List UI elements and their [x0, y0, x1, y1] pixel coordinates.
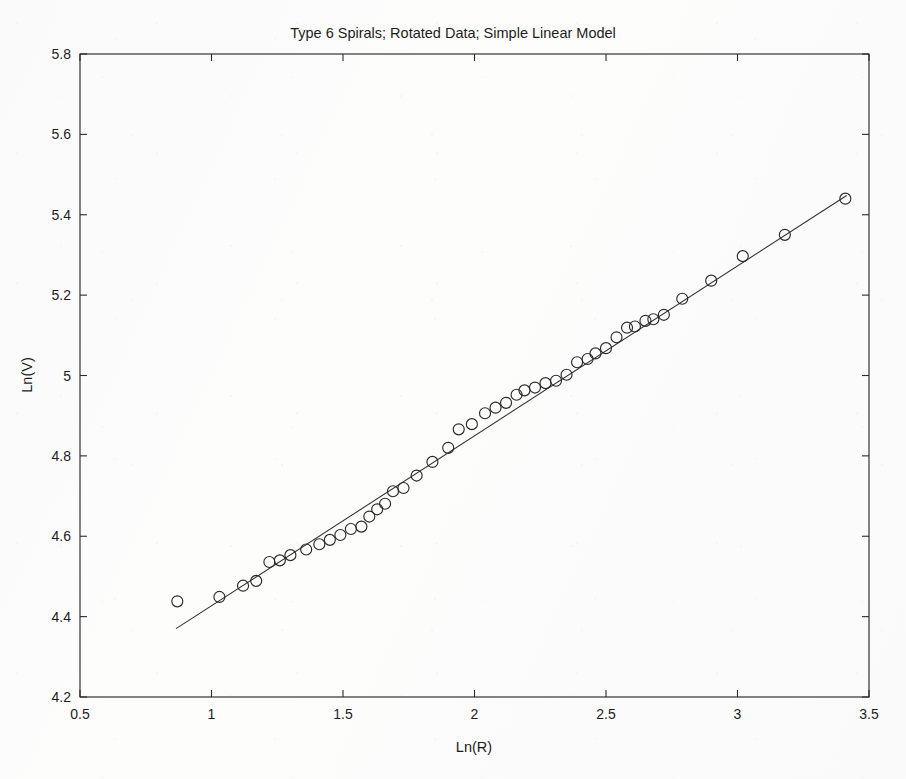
data-point[interactable]: [380, 498, 391, 509]
data-point[interactable]: [398, 483, 409, 494]
data-point[interactable]: [356, 521, 367, 532]
y-tick-label: 4.6: [52, 528, 72, 544]
data-point[interactable]: [572, 357, 583, 368]
chart-title: Type 6 Spirals; Rotated Data; Simple Lin…: [290, 25, 616, 41]
data-point[interactable]: [480, 408, 491, 419]
y-axis-ticks: [80, 54, 869, 697]
x-tick-label: 3.5: [859, 706, 879, 722]
data-point[interactable]: [658, 309, 669, 320]
data-point[interactable]: [648, 314, 659, 325]
data-point[interactable]: [501, 397, 512, 408]
y-tick-label: 5: [63, 368, 71, 384]
x-tick-label: 0.5: [70, 706, 90, 722]
x-tick-label: 2.5: [596, 706, 616, 722]
data-point[interactable]: [301, 544, 312, 555]
y-tick-label: 4.4: [52, 609, 72, 625]
x-tick-label: 2: [471, 706, 479, 722]
y-tick-label: 5.4: [52, 207, 72, 223]
data-point[interactable]: [264, 556, 275, 567]
data-point[interactable]: [629, 321, 640, 332]
y-axis-title: Ln(V): [19, 357, 35, 392]
data-point[interactable]: [737, 251, 748, 262]
y-tick-label: 5.8: [52, 46, 72, 62]
y-tick-label: 5.2: [52, 287, 72, 303]
data-point[interactable]: [443, 442, 454, 453]
figure-canvas: 0.511.522.533.5 4.24.44.64.855.25.45.65.…: [0, 0, 906, 779]
data-point[interactable]: [640, 315, 651, 326]
data-point[interactable]: [324, 534, 335, 545]
y-tick-label: 5.6: [52, 126, 72, 142]
data-point[interactable]: [453, 424, 464, 435]
x-tick-label: 1.5: [333, 706, 353, 722]
scatter-plot-chart[interactable]: 0.511.522.533.5 4.24.44.64.855.25.45.65.…: [0, 0, 906, 779]
data-point[interactable]: [622, 322, 633, 333]
y-tick-label: 4.8: [52, 448, 72, 464]
data-point[interactable]: [372, 504, 383, 515]
plot-frame: [80, 54, 869, 697]
y-tick-label: 4.2: [52, 689, 72, 705]
x-axis-ticks: [80, 54, 869, 697]
x-tick-label: 1: [208, 706, 216, 722]
data-point[interactable]: [540, 378, 551, 389]
data-point[interactable]: [490, 402, 501, 413]
data-point[interactable]: [427, 456, 438, 467]
data-point[interactable]: [314, 539, 325, 550]
data-point[interactable]: [611, 332, 622, 343]
data-point[interactable]: [345, 524, 356, 535]
x-axis-tick-labels: 0.511.522.533.5: [70, 706, 879, 722]
y-axis-tick-labels: 4.24.44.64.855.25.45.65.8: [52, 46, 72, 705]
data-point-markers[interactable]: [172, 193, 851, 607]
data-point[interactable]: [561, 369, 572, 380]
data-point[interactable]: [529, 382, 540, 393]
data-point[interactable]: [335, 530, 346, 541]
x-axis-title: Ln(R): [456, 739, 492, 755]
x-tick-label: 3: [734, 706, 742, 722]
data-point[interactable]: [274, 555, 285, 566]
data-point[interactable]: [172, 596, 183, 607]
data-point[interactable]: [466, 419, 477, 430]
